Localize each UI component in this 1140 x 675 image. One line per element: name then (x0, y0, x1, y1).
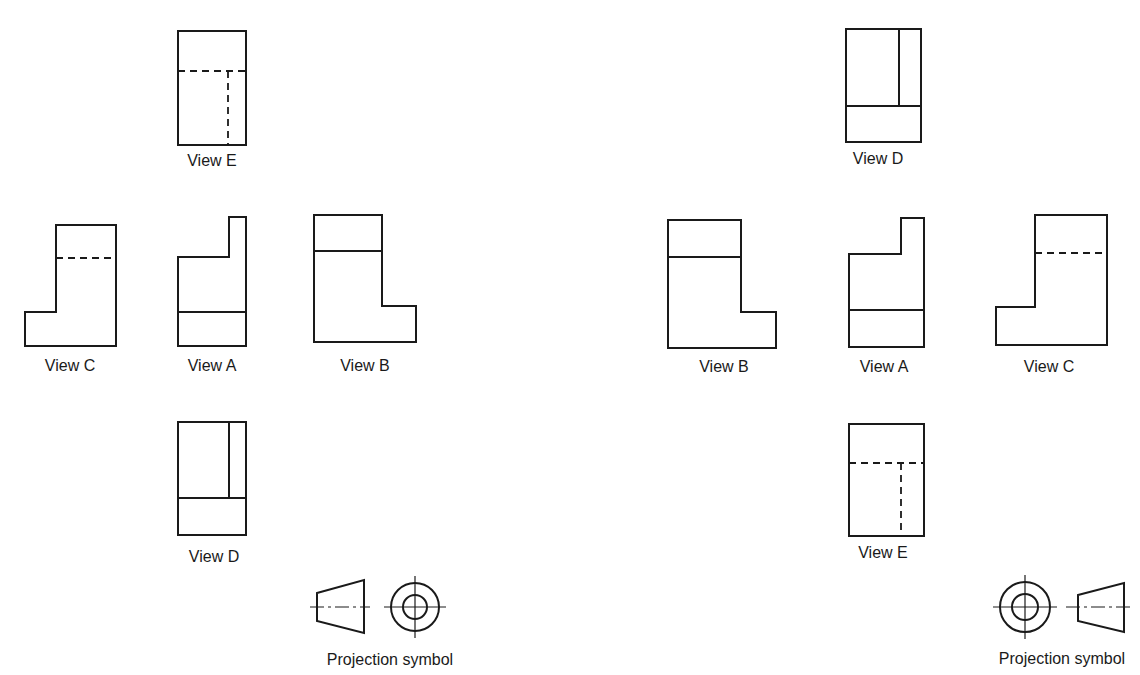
left-view-a-label: View A (188, 357, 237, 374)
right-view-c: View C (996, 215, 1107, 375)
right-arrangement: View D View B View A View C View E (668, 29, 1134, 667)
left-view-b-label: View B (340, 357, 390, 374)
left-arrangement: View E View C View A View B View D (25, 31, 453, 668)
right-view-e-label: View E (858, 544, 908, 561)
right-view-a-label: View A (860, 358, 909, 375)
right-view-c-label: View C (1024, 358, 1074, 375)
left-view-e: View E (178, 31, 246, 169)
left-view-b: View B (314, 215, 416, 374)
orthographic-projection-diagram: View E View C View A View B View D (0, 0, 1140, 675)
right-projection-symbol: Projection symbol (993, 575, 1134, 667)
left-view-c-label: View C (45, 357, 95, 374)
right-view-a: View A (849, 218, 924, 375)
right-view-e: View E (849, 424, 924, 561)
left-projection-symbol-label: Projection symbol (327, 651, 453, 668)
right-view-b: View B (668, 220, 776, 375)
left-view-a: View A (178, 217, 246, 374)
right-view-b-label: View B (699, 358, 749, 375)
right-projection-symbol-label: Projection symbol (999, 650, 1125, 667)
left-view-d: View D (178, 422, 246, 565)
left-projection-symbol: Projection symbol (310, 576, 453, 668)
right-view-d: View D (846, 29, 921, 167)
right-view-d-label: View D (853, 150, 903, 167)
left-view-d-label: View D (189, 548, 239, 565)
left-view-c: View C (25, 225, 116, 374)
left-view-e-label: View E (187, 152, 237, 169)
